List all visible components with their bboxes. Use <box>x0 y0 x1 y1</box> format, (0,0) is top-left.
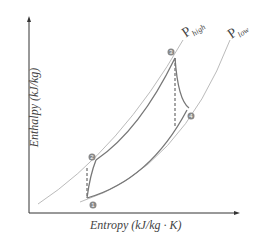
isobar-high <box>38 40 183 204</box>
axes <box>27 16 240 215</box>
cycle <box>87 58 189 198</box>
isobar-low <box>80 40 230 202</box>
points: 1 2 3 4 <box>89 49 195 209</box>
y-axis-label: Enthalpy (kJ/kg) <box>27 48 42 168</box>
x-axis-label: Entropy (kJ/kg · K) <box>90 218 182 233</box>
